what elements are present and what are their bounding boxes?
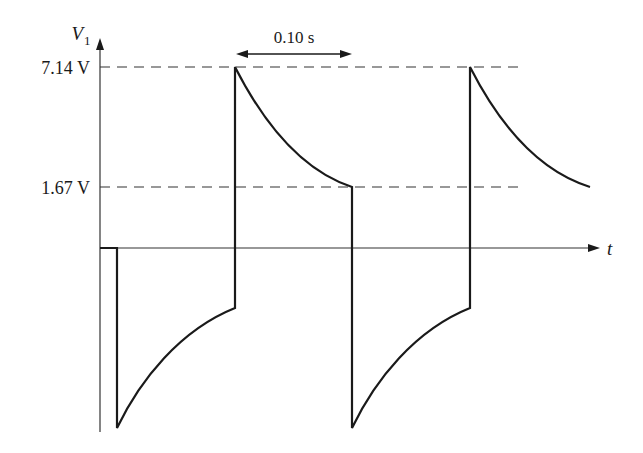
period-label: 0.10 s [274, 28, 315, 47]
level-label-upper: 7.14 V [41, 58, 90, 78]
x-axis-arrow-icon [588, 244, 600, 252]
waveform-diagram: 0.10 s V 1 7.14 V 1.67 V t [0, 0, 643, 453]
y-axis-arrow-icon [96, 38, 104, 50]
period-arrow-left-icon [236, 50, 248, 58]
y-axis-subscript: 1 [84, 33, 91, 48]
x-axis-label: t [607, 238, 613, 259]
level-label-lower: 1.67 V [41, 178, 90, 198]
period-arrow-right-icon [340, 50, 352, 58]
